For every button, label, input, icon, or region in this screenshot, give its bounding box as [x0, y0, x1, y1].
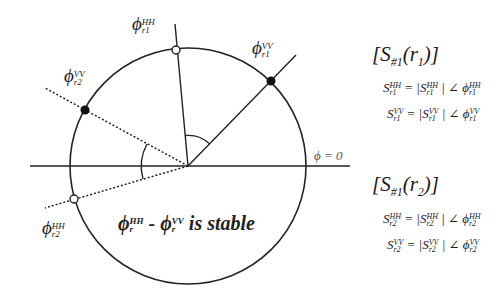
phi-r1-hh-line	[175, 24, 188, 166]
phi-r2-vv-line	[45, 88, 188, 166]
phi-r1-vv-line	[188, 55, 296, 166]
equation-r1-hh: SHHr1 = |SHHr1 | ∠ ϕHHr1	[383, 80, 481, 96]
angle-arc-r2	[141, 144, 147, 179]
matrix-r1-title: [S#1(r1)]	[372, 42, 439, 70]
matrix-r2-title: [S#1(r2)]	[372, 172, 439, 200]
label-phi-r2-vv: ϕVVr2	[64, 66, 85, 86]
reference-angle-label: ϕ = 0	[314, 148, 343, 164]
stable-annotation: ϕHHr - ϕVVr is stable	[118, 212, 255, 235]
label-phi-r2-hh: ϕHHr2	[42, 218, 65, 238]
equation-r2-vv: SVVr2 = |SVVr2 | ∠ ϕVVr2	[387, 237, 479, 253]
phi-r2-hh-line	[45, 166, 188, 208]
phi-r1-vv-marker	[267, 77, 276, 86]
angle-arc-r1	[185, 135, 210, 144]
phi-r1-hh-marker	[172, 46, 180, 54]
equation-r1-vv: SVVr1 = |SVVr1 | ∠ ϕVVr1	[387, 106, 479, 122]
equation-r2-hh: SHHr2 = |SHHr2 | ∠ ϕHHr2	[383, 211, 481, 227]
label-phi-r1-vv: ϕVVr1	[252, 38, 273, 58]
phi-r2-vv-marker	[81, 106, 90, 115]
phi-r2-hh-marker	[70, 195, 78, 203]
label-phi-r1-hh: ϕHHr1	[132, 14, 155, 34]
